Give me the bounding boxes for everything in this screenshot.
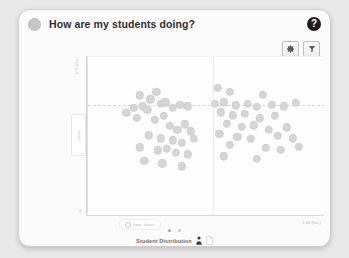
data-point[interactable] xyxy=(152,87,160,95)
document-icon[interactable] xyxy=(206,236,213,245)
data-point[interactable] xyxy=(279,102,287,110)
data-point[interactable] xyxy=(255,114,263,122)
card-header: How are my students doing? xyxy=(19,10,330,38)
data-point[interactable] xyxy=(291,99,299,107)
data-point[interactable] xyxy=(223,119,231,127)
filter-button[interactable] xyxy=(303,41,320,57)
data-point[interactable] xyxy=(136,91,144,99)
data-point[interactable] xyxy=(258,91,266,99)
data-point[interactable] xyxy=(211,100,219,108)
data-point[interactable] xyxy=(140,157,148,165)
horizontal-reference-line xyxy=(88,105,324,106)
data-point[interactable] xyxy=(270,112,278,120)
data-point[interactable] xyxy=(220,152,228,160)
legend-label: Student Distribution xyxy=(136,238,192,244)
help-icon[interactable]: ? xyxy=(307,17,321,31)
data-point[interactable] xyxy=(252,155,260,163)
data-point[interactable] xyxy=(294,142,302,150)
data-point[interactable] xyxy=(154,146,162,154)
y-axis-tick-origin: 0 xyxy=(79,208,81,213)
data-point[interactable] xyxy=(276,145,284,153)
data-point[interactable] xyxy=(243,100,251,108)
plot-area[interactable] xyxy=(87,56,324,213)
settings-button[interactable] xyxy=(282,41,299,57)
data-point[interactable] xyxy=(143,106,151,114)
data-point[interactable] xyxy=(225,87,233,95)
data-point[interactable] xyxy=(240,110,248,118)
y-axis-label-text: score xyxy=(76,130,81,141)
dashboard-card: How are my students doing? ? 370 (pts.) … xyxy=(18,9,331,247)
data-point[interactable] xyxy=(217,108,225,116)
data-point[interactable] xyxy=(267,100,275,108)
person-icon[interactable] xyxy=(196,236,202,245)
data-point[interactable] xyxy=(252,103,260,111)
data-point[interactable] xyxy=(273,132,281,140)
vertical-reference-line xyxy=(213,57,214,213)
x-axis-tick-max: 1.49 (hrs.) xyxy=(302,220,321,225)
data-point[interactable] xyxy=(163,145,171,153)
x-axis-label-text: time, hours xyxy=(133,222,155,227)
data-point[interactable] xyxy=(136,143,144,151)
data-point[interactable] xyxy=(214,84,222,92)
data-point[interactable] xyxy=(282,123,290,131)
data-point[interactable] xyxy=(184,102,192,110)
data-point[interactable] xyxy=(261,144,269,152)
data-point[interactable] xyxy=(173,126,181,134)
data-point[interactable] xyxy=(190,135,198,143)
data-point[interactable] xyxy=(145,131,153,139)
chart-legend: Student Distribution xyxy=(19,236,330,245)
data-point[interactable] xyxy=(184,150,192,158)
data-point[interactable] xyxy=(151,116,159,124)
pagination-dot[interactable] xyxy=(178,229,181,232)
pagination-dot[interactable] xyxy=(168,229,171,232)
data-point[interactable] xyxy=(160,112,168,120)
data-point[interactable] xyxy=(133,113,141,121)
data-point[interactable] xyxy=(169,136,177,144)
pagination-dots[interactable] xyxy=(19,229,330,232)
data-point[interactable] xyxy=(233,132,241,140)
data-point[interactable] xyxy=(246,135,254,143)
data-point[interactable] xyxy=(130,103,138,111)
data-point[interactable] xyxy=(178,162,186,170)
funnel-icon xyxy=(308,45,316,53)
gear-icon xyxy=(286,45,295,54)
data-point[interactable] xyxy=(172,148,180,156)
data-point[interactable] xyxy=(157,134,165,142)
data-point[interactable] xyxy=(158,159,166,167)
data-point[interactable] xyxy=(122,109,130,117)
scatter-plot[interactable]: 370 (pts.) 0 score xyxy=(77,56,324,216)
data-point[interactable] xyxy=(264,126,272,134)
data-point[interactable] xyxy=(249,121,257,129)
data-point[interactable] xyxy=(228,111,236,119)
x-axis-line xyxy=(86,215,324,216)
data-point[interactable] xyxy=(231,101,239,109)
clock-icon xyxy=(125,222,131,228)
data-point[interactable] xyxy=(215,129,223,137)
data-point[interactable] xyxy=(237,123,245,131)
chart-toolbar xyxy=(282,41,320,57)
y-axis-label: score xyxy=(71,114,86,156)
page-title: How are my students doing? xyxy=(49,18,195,30)
data-point[interactable] xyxy=(146,95,154,103)
y-axis-tick-max: 370 (pts.) xyxy=(75,57,79,74)
status-dot-icon xyxy=(28,18,41,31)
data-point[interactable] xyxy=(225,141,233,149)
data-point[interactable] xyxy=(178,139,186,147)
data-point[interactable] xyxy=(288,134,296,142)
